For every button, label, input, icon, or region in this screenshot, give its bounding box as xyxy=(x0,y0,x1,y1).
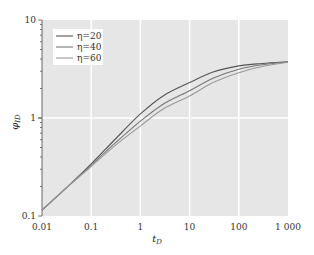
y-tick-label: 0.1 xyxy=(22,211,36,221)
y-tick-label: 1 xyxy=(30,113,36,123)
y-axis-label: φID xyxy=(9,114,22,130)
x-tick-label: 0.01 xyxy=(32,222,52,232)
x-tick-label: 1 xyxy=(138,222,144,232)
legend: η=20η=40η=60 xyxy=(53,29,103,65)
chart: 0.010.11101001 0000.1110 η=20η=40η=60 tD… xyxy=(0,0,314,255)
x-tick-label: 100 xyxy=(230,222,247,232)
legend-label: η=20 xyxy=(77,31,102,41)
legend-label: η=40 xyxy=(77,42,102,52)
y-tick-label: 10 xyxy=(25,15,37,25)
x-tick-label: 1 000 xyxy=(275,222,301,232)
x-axis-label: tD xyxy=(152,233,162,246)
x-tick-label: 0.1 xyxy=(84,222,98,232)
x-tick-label: 10 xyxy=(184,222,196,232)
legend-label: η=60 xyxy=(77,53,102,63)
